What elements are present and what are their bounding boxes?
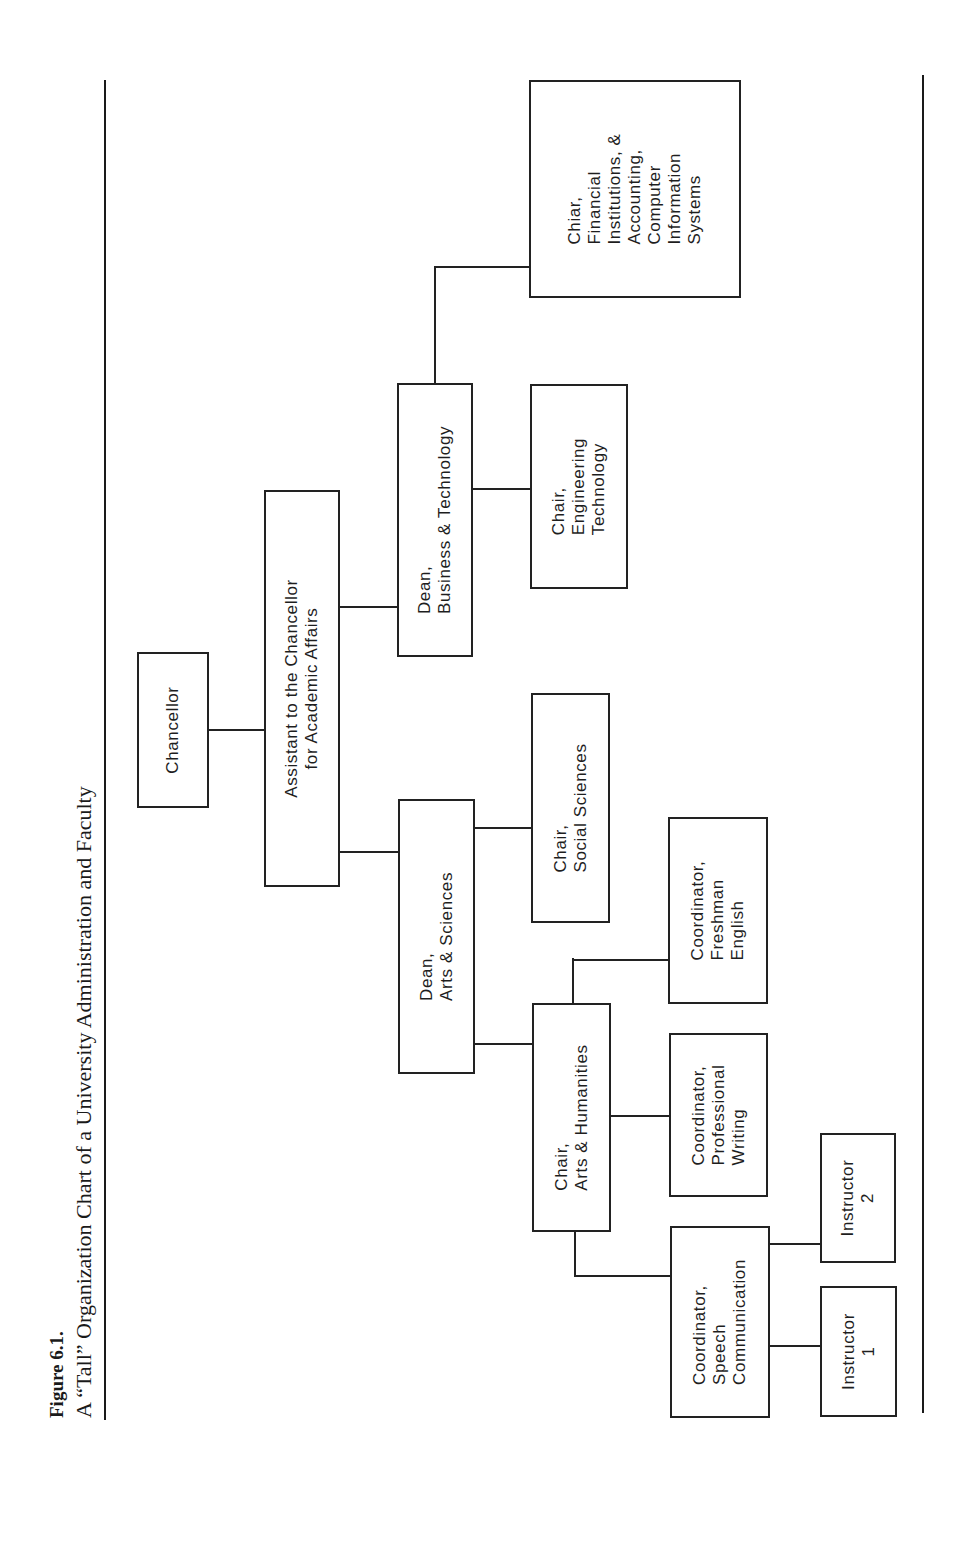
connector-humanities-speech-a [574, 1231, 576, 1277]
node-coordinator-professional-writing: Coordinator, Professional Writing [669, 1033, 768, 1197]
node-chair-social-sciences: Chair, Social Sciences [531, 693, 610, 923]
connector-arts-social [475, 827, 532, 829]
bottom-rule [922, 75, 924, 1413]
connector-assistant-dean-arts [340, 851, 399, 853]
connector-humanities-professional [611, 1115, 670, 1117]
node-coordinator-freshman-english: Coordinator, Freshman English [668, 817, 768, 1004]
node-label: Chiar, Financial Institutions, & Account… [565, 133, 705, 244]
node-label: Dean, Business & Technology [415, 426, 455, 614]
connector-business-financial-a [434, 266, 436, 384]
node-dean-business-technology: Dean, Business & Technology [397, 383, 473, 657]
figure-label: Figure 6.1. [46, 1331, 68, 1418]
top-rule [104, 80, 106, 1420]
node-label: Assistant to the Chancellor for Academic… [282, 579, 322, 797]
connector-speech-instructor-1 [770, 1345, 821, 1347]
node-label: Chair, Engineering Technology [549, 438, 609, 535]
node-label: Coordinator, Freshman English [688, 861, 748, 961]
node-chancellor: Chancellor [137, 652, 209, 808]
node-label: Instructor 2 [838, 1160, 878, 1237]
connector-assistant-dean-business [340, 606, 398, 608]
node-label: Chair, Social Sciences [551, 744, 591, 873]
connector-humanities-speech-b [574, 1275, 671, 1277]
node-label: Coordinator, Speech Communication [690, 1259, 750, 1385]
connector-arts-humanities [475, 1043, 533, 1045]
connector-humanities-freshman-b [572, 959, 669, 961]
connector-chancellor-assistant [209, 729, 265, 731]
node-label: Chair, Arts & Humanities [552, 1044, 592, 1190]
connector-business-engineering [473, 488, 531, 490]
node-chair-arts-humanities: Chair, Arts & Humanities [532, 1003, 611, 1232]
node-label: Chancellor [163, 686, 183, 773]
connector-speech-instructor-2 [770, 1243, 821, 1245]
node-chair-engineering-technology: Chair, Engineering Technology [530, 384, 628, 589]
node-instructor-1: Instructor 1 [820, 1286, 897, 1417]
node-coordinator-speech-communication: Coordinator, Speech Communication [670, 1226, 770, 1418]
node-label: Dean, Arts & Sciences [417, 872, 457, 1001]
node-dean-arts-sciences: Dean, Arts & Sciences [398, 799, 475, 1074]
rotated-page: Figure 6.1. A “Tall” Organization Chart … [0, 0, 980, 1552]
node-assistant-chancellor: Assistant to the Chancellor for Academic… [264, 490, 340, 887]
connector-humanities-freshman-a [572, 958, 574, 1004]
connector-business-financial-b [434, 266, 530, 268]
node-chair-financial-institutions: Chiar, Financial Institutions, & Account… [529, 80, 741, 298]
node-label: Coordinator, Professional Writing [689, 1065, 749, 1166]
node-instructor-2: Instructor 2 [820, 1133, 896, 1263]
node-label: Instructor 1 [839, 1313, 879, 1390]
figure-title: A “Tall” Organization Chart of a Univers… [72, 786, 96, 1418]
